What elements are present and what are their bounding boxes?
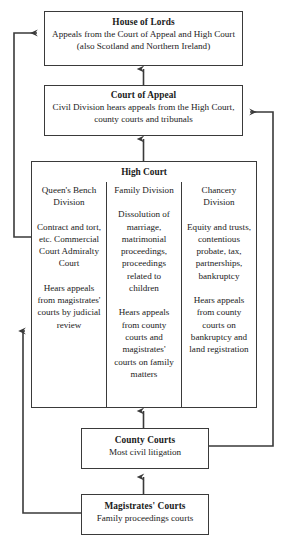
magistrates-courts-title: Magistrates' Courts [82,500,208,512]
division-appeals: Hears appeals from county courts and mag… [111,306,177,380]
high-court-division-queens-bench[interactable]: Queen's Bench Division Contract and tort… [32,182,106,407]
house-of-lords-title: House of Lords [45,16,242,28]
high-court-division-chancery[interactable]: Chancery Division Equity and trusts, con… [181,182,256,407]
court-of-appeal-title: Court of Appeal [45,89,242,101]
division-name: Chancery Division [186,184,252,209]
box-court-of-appeal[interactable]: Court of Appeal Civil Division hears app… [44,85,243,136]
box-county-courts[interactable]: County Courts Most civil litigation [81,428,209,469]
county-courts-subtitle: Most civil litigation [82,446,208,458]
division-scope: Equity and trusts, contentious probate, … [186,221,252,282]
division-appeals: Hears appeals from magistrates' courts b… [36,282,102,331]
box-house-of-lords[interactable]: House of Lords Appeals from the Court of… [44,11,243,66]
magistrates-courts-subtitle: Family proceedings courts [82,512,208,524]
box-magistrates-courts[interactable]: Magistrates' Courts Family proceedings c… [81,494,209,535]
division-name: Family Division [111,184,177,196]
division-name: Queen's Bench Division [36,184,102,209]
division-scope: Contract and tort, etc. Commercial Court… [36,221,102,270]
court-hierarchy-diagram: House of Lords Appeals from the Court of… [0,0,282,539]
division-scope: Dissolution of marriage, matrimonial pro… [111,208,177,294]
court-of-appeal-subtitle: Civil Division hears appeals from the Hi… [45,101,242,126]
county-courts-title: County Courts [82,434,208,446]
house-of-lords-subtitle: Appeals from the Court of Appeal and Hig… [45,28,242,53]
high-court-title: High Court [32,162,256,178]
division-appeals: Hears appeals from county courts on bank… [186,294,252,355]
box-high-court[interactable]: High Court Queen's Bench Division Contra… [31,161,257,408]
high-court-divisions: Queen's Bench Division Contract and tort… [32,182,256,407]
high-court-division-family[interactable]: Family Division Dissolution of marriage,… [106,182,181,407]
